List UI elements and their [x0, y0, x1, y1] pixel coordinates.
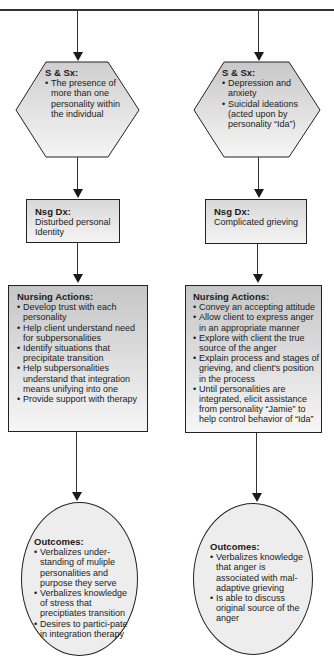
- symptoms-title: S & Sx:: [222, 68, 318, 78]
- symptom-item: Suicidal ideations (acted upon by person…: [222, 99, 318, 130]
- symptoms-right: S & Sx: Depression and anxiety Suicidal …: [222, 68, 318, 129]
- arrow-down-icon: [254, 189, 264, 198]
- actions-title: Nursing Actions:: [193, 292, 321, 302]
- action-item: Allow client to express anger in an appr…: [193, 312, 321, 332]
- action-item: Convey an accepting attitude: [193, 302, 321, 312]
- diagnosis-box-right: Nsg Dx: Complicated grieving: [205, 199, 307, 244]
- connector-line: [258, 157, 259, 192]
- connector-line: [256, 433, 257, 495]
- nursing-actions-box-right: Nursing Actions: Convey an accepting att…: [185, 285, 322, 433]
- connector-line: [257, 244, 258, 276]
- action-item: Explore with client the true source of t…: [193, 333, 321, 353]
- symptom-item: Depression and anxiety: [222, 78, 318, 98]
- outcome-item: Verbalizes knowledge that anger is assoc…: [210, 552, 310, 593]
- arrow-down-icon: [252, 493, 262, 502]
- diagnosis-text: Complicated grieving: [214, 217, 306, 227]
- outcomes-title: Outcomes:: [210, 542, 310, 552]
- action-item: Until personalities are integrated, elic…: [193, 384, 321, 425]
- outcome-item: Is able to discuss original source of th…: [210, 593, 310, 624]
- outcomes-right: Outcomes: Verbalizes knowledge that ange…: [210, 542, 310, 624]
- arrow-down-icon: [253, 274, 263, 283]
- diagnosis-title: Nsg Dx:: [214, 207, 306, 217]
- action-item: Explain process and stages of grieving, …: [193, 353, 321, 384]
